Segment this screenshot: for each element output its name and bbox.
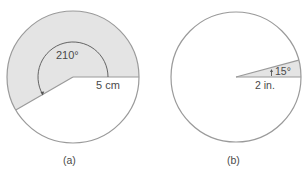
caption-b: (b): [227, 154, 240, 166]
figure-b: 15° 2 in. (b): [171, 12, 301, 166]
angle-label-b: 15°: [275, 65, 291, 77]
caption-a: (a): [63, 154, 76, 166]
figure-a: 210° 5 cm (a): [7, 11, 139, 166]
radius-label-b: 2 in.: [255, 79, 275, 91]
angle-label-a: 210°: [56, 49, 79, 61]
radius-label-a: 5 cm: [96, 79, 120, 91]
sector-diagrams: 210° 5 cm (a) 15° 2 in. (b): [0, 0, 302, 177]
